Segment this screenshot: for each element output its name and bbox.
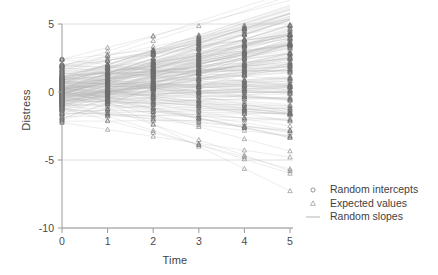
y-tick-label: 0 — [48, 86, 54, 98]
random-slope-lines — [62, 0, 290, 191]
y-axis-label: Distress — [20, 75, 32, 145]
legend-label: Random intercepts — [330, 183, 418, 195]
legend-label: Expected values — [330, 197, 407, 209]
x-tick-label: 0 — [59, 235, 65, 247]
legend-circle-marker — [311, 188, 315, 192]
legend-label: Random slopes — [330, 210, 403, 222]
x-axis: 012345 — [59, 228, 293, 247]
legend-triangle-marker — [311, 201, 316, 205]
legend: Random interceptsExpected valuesRandom s… — [306, 183, 418, 222]
y-tick-label: 5 — [48, 18, 54, 30]
chart-canvas: 50-5-10 012345 Random interceptsExpected… — [0, 0, 438, 275]
x-tick-label: 2 — [150, 235, 156, 247]
chart-figure: 50-5-10 012345 Random interceptsExpected… — [0, 0, 438, 275]
x-tick-label: 5 — [287, 235, 293, 247]
x-tick-label: 4 — [241, 235, 247, 247]
y-axis: 50-5-10 — [39, 18, 62, 234]
x-tick-label: 1 — [105, 235, 111, 247]
x-axis-label: Time — [62, 254, 288, 266]
y-tick-label: -10 — [39, 222, 54, 234]
y-tick-label: -5 — [45, 154, 54, 166]
x-tick-label: 3 — [196, 235, 202, 247]
